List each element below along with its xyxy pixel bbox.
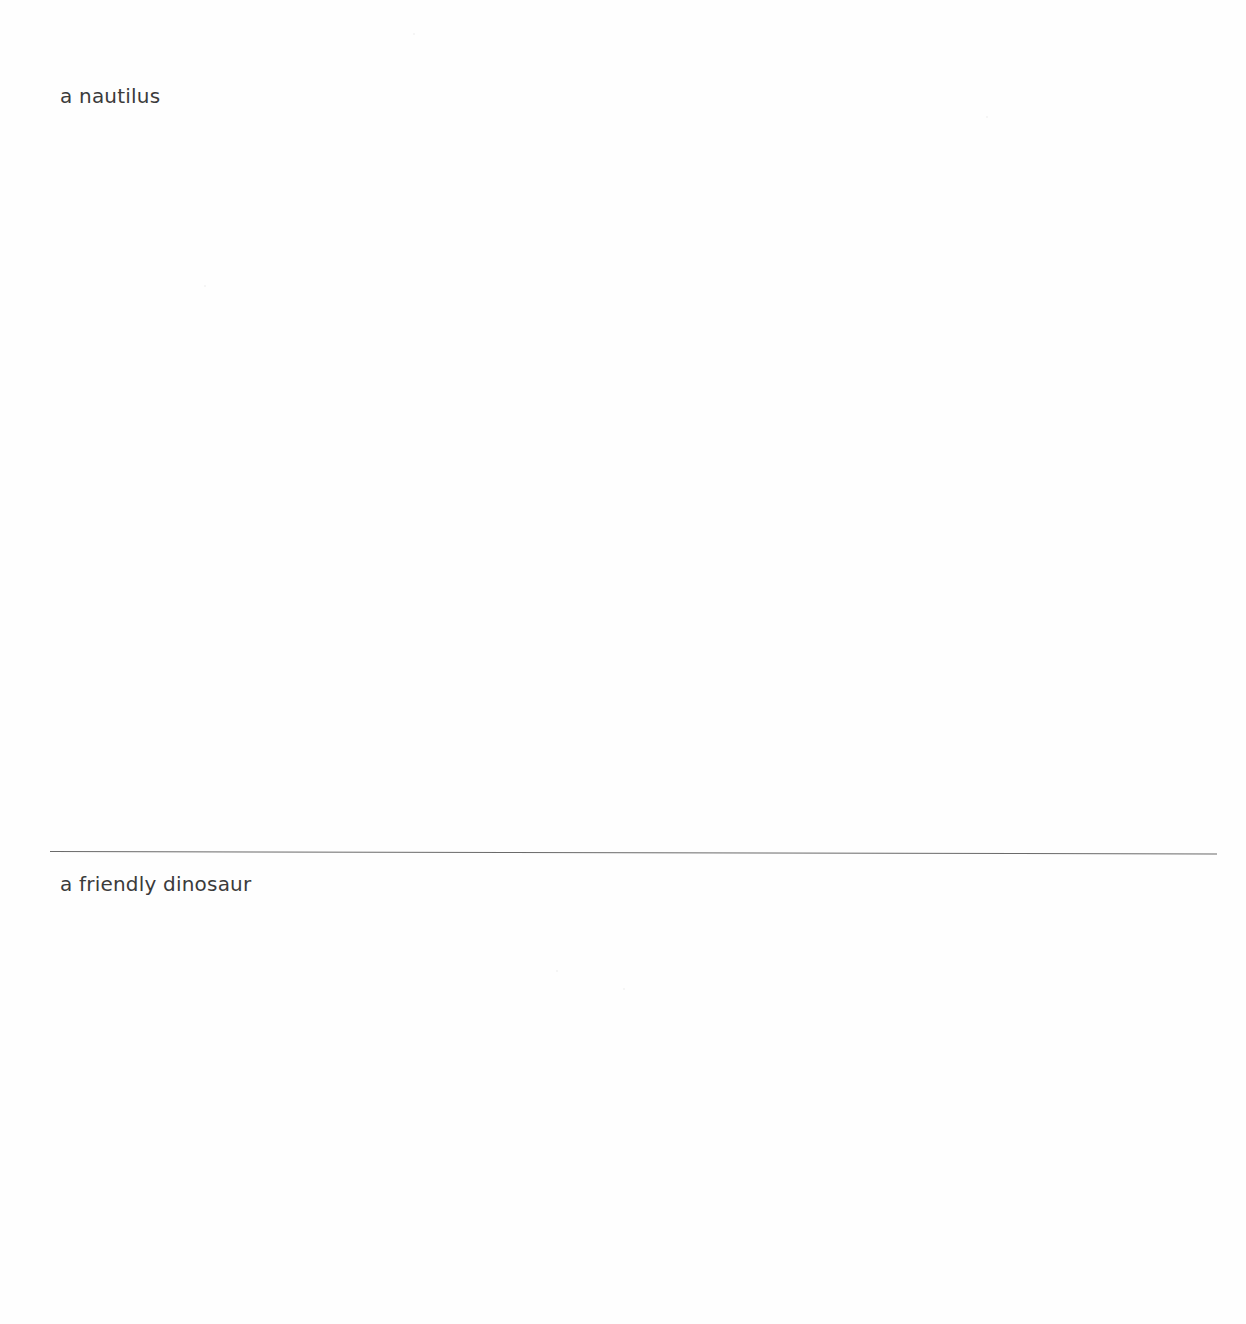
section-label: a friendly dinosaur	[60, 872, 251, 896]
section-nautilus: a nautilus	[0, 0, 1246, 850]
scan-speck	[986, 116, 988, 118]
scan-speck	[413, 33, 415, 35]
section-label: a nautilus	[60, 84, 160, 108]
blank-drawing-area	[50, 120, 1216, 840]
document-page: a nautilus a friendly dinosaur	[0, 0, 1246, 1324]
scan-speck	[623, 988, 625, 990]
scan-speck	[204, 285, 206, 287]
section-friendly-dinosaur: a friendly dinosaur	[0, 854, 1246, 1324]
scan-speck	[556, 970, 558, 972]
blank-drawing-area	[50, 904, 1216, 1314]
